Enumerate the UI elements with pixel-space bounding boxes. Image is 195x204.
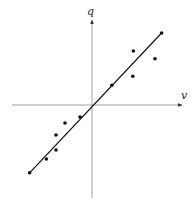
data-point xyxy=(131,74,135,78)
line-endpoint xyxy=(28,171,32,175)
fit-line xyxy=(28,31,164,174)
axes xyxy=(12,20,182,198)
line-endpoint xyxy=(160,31,164,35)
y-axis-label: q xyxy=(87,5,94,18)
data-point xyxy=(63,121,67,125)
scatter-plot: q v xyxy=(0,0,195,204)
data-point xyxy=(153,57,157,61)
data-point xyxy=(132,49,136,53)
data-point xyxy=(54,133,58,137)
data-point xyxy=(45,157,49,161)
data-point xyxy=(110,83,114,87)
data-point xyxy=(54,148,58,152)
x-axis-label: v xyxy=(181,89,188,102)
data-point xyxy=(78,115,82,119)
